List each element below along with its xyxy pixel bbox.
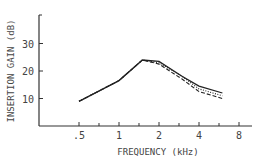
y-axis: 102030	[22, 15, 43, 126]
series-line-dashed	[79, 60, 222, 101]
y-tick-label: 30	[22, 39, 34, 50]
x-tick-label: 2	[156, 130, 162, 141]
series-line-dotted	[79, 60, 222, 101]
x-tick-label: 8	[236, 130, 242, 141]
data-series	[79, 60, 222, 101]
x-axis: .51248	[39, 122, 252, 141]
x-tick-label: 4	[196, 130, 202, 141]
y-axis-title: INSERTION GAIN (dB)	[6, 20, 16, 123]
series-line-solid	[79, 60, 222, 101]
y-tick-label: 10	[22, 94, 34, 105]
x-axis-title: FREQUENCY (kHz)	[117, 147, 198, 157]
y-tick-label: 20	[22, 66, 34, 77]
x-tick-label: 1	[116, 130, 122, 141]
insertion-gain-chart: 102030 .51248 INSERTION GAIN (dB) FREQUE…	[0, 0, 261, 161]
x-tick-label: .5	[73, 130, 85, 141]
